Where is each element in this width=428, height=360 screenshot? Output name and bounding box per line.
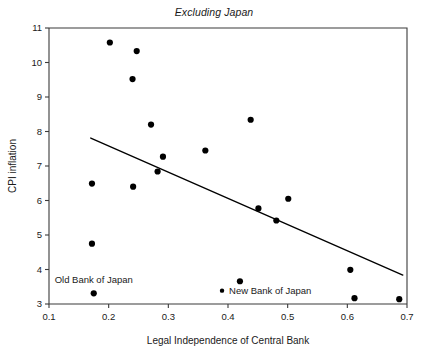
x-tick-label: 0.2 bbox=[102, 311, 115, 322]
annotation-bullet bbox=[220, 288, 224, 292]
y-tick-label: 6 bbox=[37, 195, 42, 206]
data-point bbox=[89, 241, 95, 247]
y-tick-label: 10 bbox=[31, 57, 42, 68]
x-tick-label: 0.3 bbox=[162, 311, 175, 322]
regression-line bbox=[91, 138, 403, 275]
y-axis-title: CPI inflation bbox=[7, 139, 18, 193]
data-point bbox=[130, 184, 136, 190]
y-tick-label: 7 bbox=[37, 160, 42, 171]
x-tick-label: 0.4 bbox=[221, 311, 234, 322]
x-tick-label: 0.7 bbox=[400, 311, 413, 322]
data-point bbox=[202, 147, 208, 153]
data-point bbox=[396, 296, 402, 302]
data-point bbox=[91, 290, 97, 296]
x-axis-title: Legal Independence of Central Bank bbox=[147, 335, 310, 346]
data-point bbox=[129, 76, 135, 82]
data-point bbox=[160, 154, 166, 160]
regression-line-segment bbox=[91, 138, 403, 275]
y-tick-label: 9 bbox=[37, 91, 42, 102]
plot-frame-edges bbox=[49, 28, 407, 304]
y-tick-label: 11 bbox=[32, 22, 42, 33]
data-point bbox=[285, 196, 291, 202]
ticks-group bbox=[45, 28, 407, 308]
data-point bbox=[255, 205, 261, 211]
data-point bbox=[107, 39, 113, 45]
y-tick-label: 8 bbox=[37, 126, 42, 137]
data-point bbox=[273, 217, 279, 223]
y-tick-label: 3 bbox=[37, 298, 42, 309]
x-tick-label: 0.1 bbox=[42, 311, 55, 322]
data-point bbox=[237, 278, 243, 284]
data-points-group bbox=[89, 39, 402, 302]
x-tick-label: 0.5 bbox=[281, 311, 294, 322]
plot-canvas: 345678910110.10.20.30.40.50.60.7 Old Ban… bbox=[0, 0, 428, 360]
y-tick-label: 4 bbox=[37, 264, 42, 275]
data-point bbox=[347, 267, 353, 273]
axes-group bbox=[49, 28, 407, 304]
y-tick-label: 5 bbox=[37, 229, 42, 240]
data-point bbox=[89, 180, 95, 186]
axis-spines bbox=[49, 28, 407, 304]
annotation-label: New Bank of Japan bbox=[229, 285, 311, 296]
data-point bbox=[248, 117, 254, 123]
scatter-plot-figure: Excluding Japan 345678910110.10.20.30.40… bbox=[0, 0, 428, 360]
annotation-label: Old Bank of Japan bbox=[55, 274, 133, 285]
data-point bbox=[154, 168, 160, 174]
x-tick-label: 0.6 bbox=[341, 311, 354, 322]
data-point bbox=[134, 48, 140, 54]
data-point bbox=[351, 295, 357, 301]
data-point bbox=[148, 122, 154, 128]
